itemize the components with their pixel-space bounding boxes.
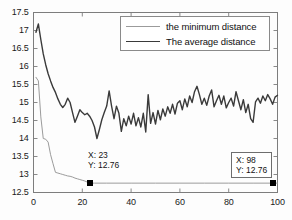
y-tick-label: 17	[0, 25, 29, 35]
y-tick-label: 14.5	[0, 115, 29, 125]
y-tick-label: 13	[0, 169, 29, 179]
y-tick-label: 16	[0, 61, 29, 71]
legend-swatch-average-icon	[126, 41, 160, 42]
legend-box[interactable]: the minimum distance The average distanc…	[120, 16, 270, 51]
y-tick-label: 13.5	[0, 151, 29, 161]
x-tick-label: 80	[215, 197, 243, 207]
legend-item-minimum[interactable]: the minimum distance	[121, 19, 269, 34]
legend-label-minimum: the minimum distance	[166, 21, 256, 32]
y-tick-label: 12.5	[0, 187, 29, 197]
x-tick-label: 40	[117, 197, 145, 207]
datatip-marker-first[interactable]	[87, 180, 93, 186]
datatip-first-x: X: 23	[88, 150, 119, 160]
x-tick-label: 60	[166, 197, 194, 207]
datatip-first[interactable]: X: 23 Y: 12.76	[88, 150, 119, 170]
x-tick-label: 100	[264, 197, 292, 207]
legend-item-average[interactable]: The average distance	[121, 34, 269, 49]
y-tick-label: 17.5	[0, 7, 29, 17]
datatip-first-y: Y: 12.76	[88, 160, 119, 170]
x-tick-label: 0	[20, 197, 48, 207]
datatip-marker-second[interactable]	[270, 180, 276, 186]
legend-label-average: The average distance	[166, 36, 255, 47]
y-tick-label: 15	[0, 97, 29, 107]
datatip-second-y: Y: 12.76	[236, 165, 267, 175]
x-tick-label: 20	[68, 197, 96, 207]
figure-canvas: 12.51313.51414.51515.51616.51717.5 02040…	[0, 0, 292, 220]
y-tick-label: 16.5	[0, 43, 29, 53]
datatip-second[interactable]: X: 98 Y: 12.76	[231, 152, 272, 178]
legend-swatch-minimum-icon	[126, 26, 160, 27]
y-tick-label: 14	[0, 133, 29, 143]
datatip-second-x: X: 98	[236, 155, 267, 165]
y-tick-label: 15.5	[0, 79, 29, 89]
